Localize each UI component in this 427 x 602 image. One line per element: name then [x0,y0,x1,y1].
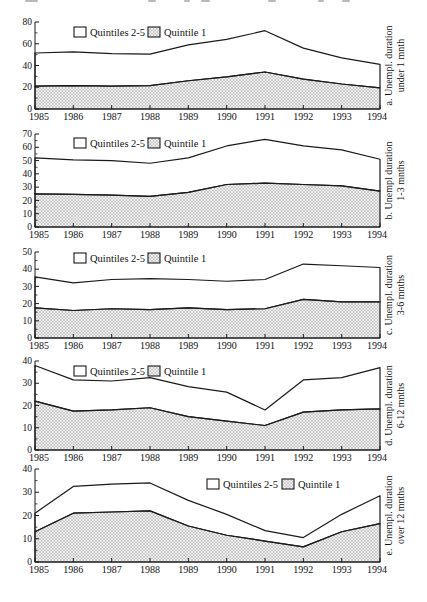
x-year-label: 1993 [332,111,352,122]
y-tick-label: 40 [23,356,33,366]
x-year-label: 1990 [217,340,237,351]
x-year-label: 1989 [178,229,198,240]
x-year-label: 1985 [29,229,49,240]
x-year-label: 1991 [255,111,275,122]
x-year-label: 1985 [29,111,49,122]
x-year-label: 1989 [178,564,198,575]
x-year-label: 1991 [255,564,275,575]
unemployment-duration-figure: 0204060801985198619871988198919901991199… [0,0,427,602]
x-year-label: 1994 [367,111,387,122]
x-year-label: 1993 [332,340,352,351]
x-year-label: 1987 [102,564,122,575]
legend-label-quintiles-2-5: Quintiles 2-5 [90,366,145,377]
x-year-label: 1988 [140,229,160,240]
x-year-label: 1993 [332,452,352,463]
right-axis-title-line: over 12 mnths [395,487,406,544]
x-year-label: 1992 [293,229,313,240]
legend-swatch-quintiles-2-5 [74,138,86,148]
x-year-label: 1994 [367,452,387,463]
legend-label-quintile-1: Quintile 1 [164,138,206,149]
caption-glyph-fragment [318,0,324,2]
x-year-label: 1989 [178,340,198,351]
y-tick-label: 60 [23,39,33,49]
legend-label-quintile-1: Quintile 1 [164,27,206,38]
y-tick-label: 20 [23,82,33,92]
right-axis-title-line: c. Unempl. duration [383,255,394,335]
right-axis-title-line: b. Unempl duration [383,141,394,219]
caption-glyph-fragment [268,0,276,2]
caption-glyph-fragment [25,0,38,2]
x-year-label: 1988 [140,452,160,463]
legend-swatch-quintile-1 [148,366,160,376]
y-tick-label: 10 [23,316,33,326]
x-year-label: 1986 [63,340,83,351]
x-year-label: 1992 [293,111,313,122]
legend-label-quintile-1: Quintile 1 [164,253,206,264]
right-axis-title-line: a. Unempl. duration [383,26,394,106]
caption-glyph-fragment [184,0,190,2]
x-year-label: 1985 [29,452,49,463]
x-year-label: 1992 [293,340,313,351]
legend-label-quintiles-2-5: Quintiles 2-5 [90,253,145,264]
x-year-label: 1987 [102,111,122,122]
legend-swatch-quintile-1 [148,138,160,148]
y-tick-label: 20 [23,299,33,309]
legend-swatch-quintiles-2-5 [207,479,219,489]
y-tick-label: 20 [23,196,33,206]
x-year-label: 1992 [293,564,313,575]
y-tick-label: 50 [23,156,33,166]
y-tick-label: 10 [23,209,33,219]
legend-label-quintiles-2-5: Quintiles 2-5 [223,479,278,490]
x-year-label: 1986 [63,111,83,122]
y-tick-label: 30 [23,378,33,388]
panel-e: 0102030401985198619871988198919901991199… [23,464,406,575]
legend-label-quintile-1: Quintile 1 [298,479,340,490]
x-year-label: 1994 [367,340,387,351]
legend-swatch-quintile-1 [148,27,160,37]
y-tick-label: 40 [23,61,33,71]
x-year-label: 1990 [217,229,237,240]
x-year-label: 1987 [102,452,122,463]
x-year-label: 1987 [102,229,122,240]
x-year-label: 1985 [29,564,49,575]
y-tick-label: 30 [23,487,33,497]
legend-swatch-quintile-1 [282,479,294,489]
x-year-label: 1988 [140,340,160,351]
y-tick-label: 20 [23,511,33,521]
right-axis-title-line: d. Unempl. duration [383,365,394,446]
x-year-label: 1993 [332,564,352,575]
y-tick-label: 20 [23,401,33,411]
x-year-label: 1989 [178,452,198,463]
panel-c: 0102030405019851986198719881989199019911… [23,247,406,351]
right-axis-title-line: under 1 mnth [395,39,406,92]
y-tick-label: 30 [23,182,33,192]
y-tick-label: 60 [23,142,33,152]
x-year-label: 1994 [367,229,387,240]
x-year-label: 1990 [217,452,237,463]
y-tick-label: 10 [23,423,33,433]
caption-glyph-fragment [148,0,156,2]
y-tick-label: 40 [23,169,33,179]
clipped-caption-fragment [0,0,427,4]
x-year-label: 1993 [332,229,352,240]
caption-glyph-fragment [201,0,210,2]
right-axis-title-line: 1-3 mnths [395,160,406,200]
y-tick-label: 10 [23,534,33,544]
x-year-label: 1989 [178,111,198,122]
legend-label-quintiles-2-5: Quintiles 2-5 [90,138,145,149]
right-axis-title-line: 6-12 mnths [395,383,406,428]
right-axis-title-line: 3-6 mnths [395,275,406,315]
legend-label-quintile-1: Quintile 1 [164,366,206,377]
legend-swatch-quintiles-2-5 [74,366,86,376]
x-year-label: 1992 [293,452,313,463]
legend-swatch-quintiles-2-5 [74,253,86,263]
x-year-label: 1987 [102,340,122,351]
panel-b: 0102030405060701985198619871988198919901… [23,129,406,240]
x-year-label: 1990 [217,111,237,122]
y-tick-label: 70 [23,129,33,139]
y-tick-label: 40 [23,264,33,274]
x-year-label: 1985 [29,340,49,351]
x-year-label: 1991 [255,452,275,463]
x-year-label: 1986 [63,452,83,463]
x-year-label: 1991 [255,340,275,351]
